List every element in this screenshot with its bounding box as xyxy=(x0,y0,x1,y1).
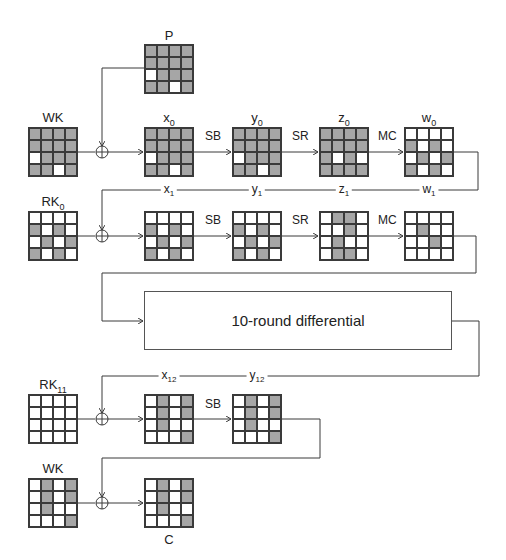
state-cell-r3c2 xyxy=(257,431,269,443)
state-cell-r3c3 xyxy=(181,431,193,443)
state-cell-r0c0 xyxy=(145,479,157,491)
state-cell-r2c3 xyxy=(269,152,281,164)
state-cell-r3c3 xyxy=(441,164,453,176)
state-cell-r1c2 xyxy=(344,224,356,236)
state-cell-r1c0 xyxy=(233,407,245,419)
state-cell-r0c2 xyxy=(344,128,356,140)
state-cell-r1c1 xyxy=(157,224,169,236)
state-cell-r3c1 xyxy=(41,164,53,176)
state-grid-w0 xyxy=(404,127,454,177)
state-cell-r0c2 xyxy=(257,212,269,224)
state-cell-r2c3 xyxy=(356,152,368,164)
state-cell-r2c1 xyxy=(417,152,429,164)
state-cell-r0c2 xyxy=(53,479,65,491)
state-cell-r2c2 xyxy=(53,419,65,431)
label-w0: w0 xyxy=(404,110,454,128)
state-cell-r3c2 xyxy=(169,248,181,260)
state-cell-r3c1 xyxy=(417,248,429,260)
state-cell-r2c1 xyxy=(157,419,169,431)
state-cell-r2c2 xyxy=(169,152,181,164)
state-grid-x0 xyxy=(144,127,194,177)
state-cell-r2c2 xyxy=(169,503,181,515)
state-cell-r0c3 xyxy=(441,212,453,224)
state-cell-r1c0 xyxy=(233,140,245,152)
state-cell-r1c1 xyxy=(245,140,257,152)
op-sb-row1: SB xyxy=(205,129,221,143)
state-cell-r0c2 xyxy=(53,395,65,407)
state-cell-r0c1 xyxy=(332,212,344,224)
state-cell-r1c1 xyxy=(332,224,344,236)
state-cell-r0c3 xyxy=(181,45,193,57)
state-cell-r3c2 xyxy=(169,515,181,527)
state-grid-y12 xyxy=(232,394,282,444)
state-cell-r0c3 xyxy=(181,479,193,491)
state-cell-r0c3 xyxy=(356,128,368,140)
state-cell-r0c2 xyxy=(169,479,181,491)
state-cell-r1c1 xyxy=(157,140,169,152)
state-cell-r0c0 xyxy=(29,128,41,140)
state-cell-r2c3 xyxy=(181,503,193,515)
state-cell-r2c2 xyxy=(53,152,65,164)
state-cell-r1c3 xyxy=(181,491,193,503)
state-grid-w1 xyxy=(404,211,454,261)
state-cell-r2c1 xyxy=(417,236,429,248)
state-cell-r3c1 xyxy=(332,248,344,260)
state-cell-r1c1 xyxy=(41,224,53,236)
state-cell-r1c2 xyxy=(429,224,441,236)
op-sr-row2: SR xyxy=(292,213,309,227)
state-cell-r3c1 xyxy=(157,431,169,443)
state-cell-r3c0 xyxy=(145,81,157,93)
label-rk11: RK11 xyxy=(28,377,78,395)
state-cell-r0c2 xyxy=(169,212,181,224)
state-cell-r2c3 xyxy=(65,419,77,431)
state-cell-r2c2 xyxy=(169,419,181,431)
state-cell-r2c1 xyxy=(41,236,53,248)
state-cell-r3c2 xyxy=(53,164,65,176)
state-cell-r1c0 xyxy=(29,407,41,419)
state-cell-r1c2 xyxy=(344,140,356,152)
state-cell-r3c1 xyxy=(157,81,169,93)
state-cell-r1c0 xyxy=(145,57,157,69)
state-cell-r3c0 xyxy=(405,164,417,176)
state-cell-r2c0 xyxy=(145,503,157,515)
state-cell-r2c0 xyxy=(29,419,41,431)
state-cell-r1c3 xyxy=(269,224,281,236)
state-cell-r3c0 xyxy=(29,431,41,443)
state-cell-r1c2 xyxy=(53,491,65,503)
state-cell-r2c0 xyxy=(145,69,157,81)
state-cell-r2c1 xyxy=(332,236,344,248)
state-cell-r2c1 xyxy=(245,236,257,248)
state-grid-wk-bottom xyxy=(28,478,78,528)
state-cell-r0c0 xyxy=(320,212,332,224)
state-cell-r0c0 xyxy=(145,45,157,57)
state-cell-r0c3 xyxy=(181,128,193,140)
state-cell-r1c3 xyxy=(269,140,281,152)
state-cell-r1c3 xyxy=(65,224,77,236)
state-cell-r1c3 xyxy=(269,407,281,419)
state-cell-r0c3 xyxy=(65,395,77,407)
state-cell-r2c1 xyxy=(157,152,169,164)
state-cell-r0c1 xyxy=(41,395,53,407)
state-cell-r0c1 xyxy=(157,395,169,407)
state-cell-r0c1 xyxy=(332,128,344,140)
state-cell-r0c0 xyxy=(29,479,41,491)
state-cell-r3c0 xyxy=(29,164,41,176)
state-cell-r0c3 xyxy=(65,479,77,491)
state-cell-r2c0 xyxy=(233,236,245,248)
state-cell-r3c3 xyxy=(65,515,77,527)
state-cell-r1c2 xyxy=(169,140,181,152)
label-rk0: RK0 xyxy=(28,194,78,212)
state-cell-r0c2 xyxy=(257,395,269,407)
state-cell-r2c1 xyxy=(245,419,257,431)
state-cell-r1c3 xyxy=(356,224,368,236)
state-cell-r2c0 xyxy=(145,419,157,431)
state-cell-r3c2 xyxy=(429,248,441,260)
state-cell-r2c0 xyxy=(405,152,417,164)
op-sb-row3: SB xyxy=(205,397,221,411)
state-cell-r1c1 xyxy=(41,491,53,503)
label-p: P xyxy=(144,28,194,43)
state-cell-r3c3 xyxy=(441,248,453,260)
state-cell-r1c0 xyxy=(145,491,157,503)
state-cell-r0c0 xyxy=(405,212,417,224)
state-cell-r1c0 xyxy=(320,140,332,152)
